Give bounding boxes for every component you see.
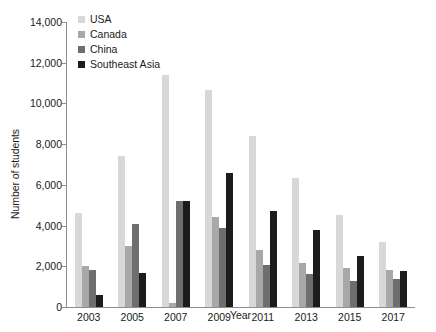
legend-label: Canada — [90, 29, 127, 40]
legend-swatch-icon — [78, 46, 85, 53]
bar — [205, 90, 212, 307]
legend: USACanadaChinaSoutheast Asia — [78, 14, 160, 74]
bar-chart: Number of students 14,00012,00010,0008,0… — [0, 0, 436, 332]
legend-swatch-icon — [78, 16, 85, 23]
bar — [350, 281, 357, 307]
y-tick-label: 8,000 — [22, 139, 62, 150]
legend-item: Southeast Asia — [78, 59, 160, 70]
bar-stack — [205, 22, 233, 307]
bar-group: 2015 — [328, 22, 372, 307]
bar — [219, 228, 226, 307]
bar-group: 2009 — [198, 22, 242, 307]
y-tick-mark — [62, 185, 66, 186]
legend-swatch-icon — [78, 31, 85, 38]
y-tick-label: 10,000 — [22, 98, 62, 109]
y-tick-mark — [62, 226, 66, 227]
bar — [118, 156, 125, 307]
bar — [393, 279, 400, 308]
y-tick-mark — [62, 63, 66, 64]
y-axis-title: Number of students — [9, 0, 21, 104]
bar-group: 2007 — [154, 22, 198, 307]
legend-item: China — [78, 44, 160, 55]
bar — [75, 213, 82, 307]
bar — [263, 265, 270, 307]
y-tick-mark — [62, 103, 66, 104]
y-tick-mark — [62, 22, 66, 23]
bar-group: 2013 — [285, 22, 329, 307]
x-axis-title: Year — [66, 309, 415, 321]
bar — [183, 201, 190, 307]
bar — [212, 217, 219, 307]
bar-stack — [292, 22, 320, 307]
y-tick-label: 4,000 — [22, 221, 62, 232]
legend-swatch-icon — [78, 61, 85, 68]
bar-stack — [249, 22, 277, 307]
y-tick-mark — [62, 144, 66, 145]
y-tick-label: 6,000 — [22, 180, 62, 191]
bar — [400, 271, 407, 307]
bar-group: 2011 — [241, 22, 285, 307]
bar-stack — [379, 22, 407, 307]
legend-label: China — [90, 44, 117, 55]
bar — [132, 224, 139, 307]
bar — [343, 268, 350, 307]
bar — [292, 178, 299, 307]
bar — [125, 246, 132, 307]
bar-group: 2017 — [372, 22, 416, 307]
y-tick-label: 12,000 — [22, 58, 62, 69]
bar — [139, 273, 146, 307]
legend-label: Southeast Asia — [90, 59, 160, 70]
bar-stack — [336, 22, 364, 307]
y-tick-label: 14,000 — [22, 17, 62, 28]
bar — [336, 215, 343, 307]
bar — [299, 263, 306, 307]
bar — [82, 266, 89, 307]
bar — [176, 201, 183, 307]
bar — [89, 270, 96, 307]
legend-item: USA — [78, 14, 160, 25]
x-axis-line — [66, 307, 415, 308]
bar-stack — [162, 22, 190, 307]
legend-label: USA — [90, 14, 112, 25]
bar — [357, 256, 364, 307]
legend-item: Canada — [78, 29, 160, 40]
y-tick-mark — [62, 266, 66, 267]
bar — [270, 211, 277, 307]
bar — [379, 242, 386, 307]
bar — [169, 303, 176, 307]
bar — [162, 75, 169, 307]
bar — [249, 136, 256, 307]
bar — [313, 230, 320, 307]
bar — [96, 295, 103, 307]
bar — [386, 270, 393, 307]
bar — [256, 250, 263, 307]
bar — [306, 274, 313, 307]
y-tick-label: 2,000 — [22, 261, 62, 272]
y-tick-mark — [62, 307, 66, 308]
y-tick-label: 0 — [22, 302, 62, 313]
bar — [226, 173, 233, 307]
